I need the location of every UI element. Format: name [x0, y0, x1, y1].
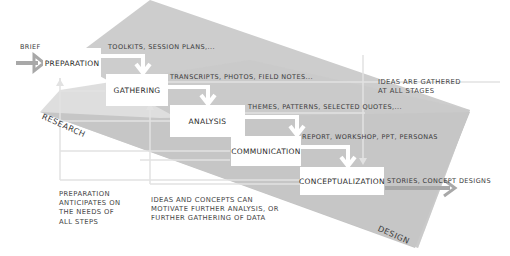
brief-arrow: [16, 55, 44, 71]
stage-communication-label: COMMUNICATION: [231, 147, 300, 156]
output-communication: REPORT, WORKSHOP, PPT, PERSONAS: [302, 133, 438, 141]
stage-preparation-label: PREPARATION: [45, 59, 100, 68]
stage-analysis: ANALYSIS: [170, 105, 245, 137]
stage-conceptualization: CONCEPTUALIZATION: [300, 167, 384, 195]
stage-preparation: PREPARATION: [43, 48, 101, 78]
stage-communication: COMMUNICATION: [231, 136, 301, 166]
note-ideas-gathered: IDEAS ARE GATHERED AT ALL STAGES: [378, 78, 461, 96]
output-gathering: TRANSCRIPTS, PHOTOS, FIELD NOTES...: [170, 73, 313, 81]
stage-gathering: GATHERING: [106, 74, 168, 106]
output-conceptualization: STORIES, CONCEPT DESIGNS: [387, 177, 491, 185]
note-ideas-motivate: IDEAS AND CONCEPTS CAN MOTIVATE FURTHER …: [151, 196, 279, 224]
output-preparation: TOOLKITS, SESSION PLANS,...: [108, 43, 215, 51]
output-analysis: THEMES, PATTERNS, SELECTED QUOTES,...: [248, 103, 402, 111]
stage-gathering-label: GATHERING: [114, 86, 161, 95]
stage-analysis-label: ANALYSIS: [189, 117, 227, 126]
brief-label: BRIEF: [20, 43, 41, 51]
note-preparation-anticipates: PREPARATION ANTICIPATES ON THE NEEDS OF …: [59, 190, 120, 227]
stage-conceptualization-label: CONCEPTUALIZATION: [299, 177, 385, 186]
